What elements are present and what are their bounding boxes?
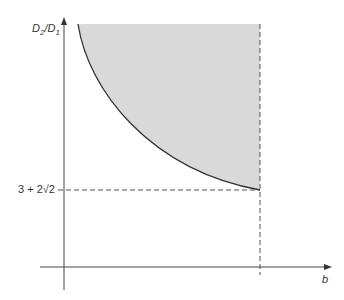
x-axis-arrow-icon [324,264,332,270]
threshold-label: 3 + 2√2 [18,183,55,195]
y-axis-label: D2/D1 [32,22,60,37]
diagram-canvas [0,0,344,300]
shaded-region [78,24,260,190]
x-axis-label: b [322,273,328,285]
y-axis-arrow-icon [61,17,67,25]
